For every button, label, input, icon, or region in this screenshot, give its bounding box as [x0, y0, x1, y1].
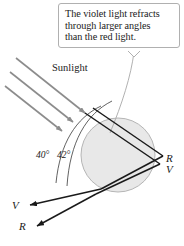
callout-line-1: The violet light refracts: [65, 8, 174, 20]
exit-ray-red: [37, 194, 96, 226]
sunlight-label: Sunlight: [52, 62, 88, 73]
callout-line-2: through larger angles: [65, 20, 174, 32]
callout-line-3: than the red light.: [65, 31, 174, 43]
ray-label-violet-left: V: [12, 199, 19, 211]
sunlight-ray-3: [5, 86, 62, 131]
angle-label-40: 40°: [36, 150, 49, 160]
rainbow-refraction-figure: The violet light refracts through larger…: [0, 0, 184, 246]
angle-label-42: 42°: [57, 150, 70, 160]
ray-label-violet-right: V: [166, 163, 173, 175]
raindrop-circle: [81, 118, 155, 192]
ray-label-red-left: R: [19, 220, 26, 232]
callout-box: The violet light refracts through larger…: [58, 3, 180, 48]
callout-tail: [128, 51, 140, 57]
